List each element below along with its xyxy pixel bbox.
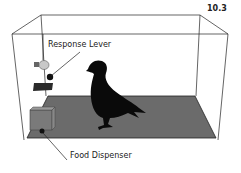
skinner-box-diagram: 10.3 Response Lever Food Dispenser	[0, 0, 241, 173]
lever-leader-line	[51, 52, 80, 76]
diagram-graphic	[0, 0, 241, 173]
figure-number: 10.3	[207, 4, 227, 13]
lever-panel	[33, 83, 53, 91]
food-dispenser-label: Food Dispenser	[70, 151, 132, 160]
food-dispenser	[30, 107, 55, 134]
response-lever-label: Response Lever	[48, 40, 111, 49]
light-bulb-icon	[34, 61, 49, 70]
